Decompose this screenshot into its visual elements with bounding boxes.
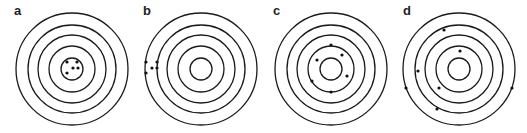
shot-dot (404, 86, 407, 89)
target-ring (320, 58, 342, 80)
target-ring (448, 58, 470, 80)
shot-dot (144, 60, 147, 63)
shot-dot (315, 58, 318, 61)
shot-dot (340, 53, 343, 56)
shot-dot (65, 60, 68, 63)
target-ring (308, 46, 354, 92)
shot-dot (329, 43, 332, 46)
target-ring (415, 25, 503, 113)
shot-dot (71, 66, 74, 69)
shot-dot (65, 71, 68, 74)
target-ring (425, 35, 493, 103)
target-ring (190, 58, 212, 80)
target-ring (145, 13, 257, 125)
target-d (403, 13, 515, 125)
shot-dot (75, 60, 78, 63)
shot-dot (510, 86, 513, 89)
target-ring (287, 25, 375, 113)
shot-dot (458, 49, 461, 52)
shot-dot (437, 86, 440, 89)
shot-dot (416, 69, 419, 72)
shot-dot (144, 71, 147, 74)
target-ring (157, 25, 245, 113)
target-ring (178, 46, 224, 92)
target-ring (167, 35, 235, 103)
shot-dot (310, 79, 313, 82)
target-rings-and-shots (0, 0, 527, 133)
target-b (144, 13, 257, 125)
shot-dot (329, 90, 332, 93)
target-a (16, 13, 128, 125)
shot-dot (150, 66, 153, 69)
shot-dot (155, 66, 158, 69)
shot-dot (76, 66, 79, 69)
target-ring (403, 13, 515, 125)
target-ring (275, 13, 387, 125)
target-c (275, 13, 387, 125)
shot-dot (345, 74, 348, 77)
shot-dot (435, 107, 438, 110)
shot-dot (442, 28, 445, 31)
target-ring (436, 46, 482, 92)
shot-dot (155, 60, 158, 63)
